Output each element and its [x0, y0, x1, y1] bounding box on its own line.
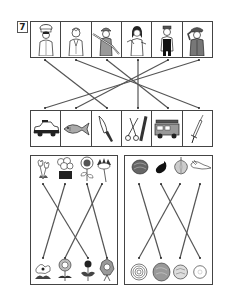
chrysanthemum-icon[interactable] — [56, 258, 74, 282]
connection-dot — [198, 59, 200, 61]
fish-icon — [62, 121, 90, 137]
connection-dot — [167, 59, 169, 61]
police-officer-icon — [185, 24, 209, 56]
occupation-cell-fishmonger[interactable]: fishmonger — [152, 22, 182, 57]
match-line — [45, 60, 107, 108]
object-cell-knife[interactable]: kitchen knife — [92, 111, 122, 146]
connection-dot — [137, 107, 139, 109]
connection-dot — [167, 107, 169, 109]
scissors-comb-icon — [124, 114, 150, 144]
match-line — [45, 60, 199, 108]
radish-icon[interactable] — [190, 159, 212, 173]
cauliflower-slice-icon[interactable] — [173, 264, 188, 280]
sunflower-icon[interactable] — [78, 156, 96, 182]
connection-dot — [75, 59, 77, 61]
wild-flower-icon[interactable] — [98, 259, 116, 282]
cabbage-icon[interactable] — [131, 159, 149, 175]
connection-dot — [44, 59, 46, 61]
object-cell-syringe[interactable]: syringe — [183, 111, 212, 146]
exercise-number-badge: 7 — [17, 21, 28, 33]
radish-slice-icon[interactable] — [193, 265, 207, 279]
connection-dot — [106, 107, 108, 109]
hairdresser-icon — [125, 24, 149, 56]
tulip-icon[interactable] — [35, 158, 51, 180]
thistle-icon[interactable] — [95, 157, 113, 183]
occupation-cell-hairdresser[interactable]: hairdresser — [122, 22, 152, 57]
firefighter-icon — [92, 24, 120, 56]
lily-icon[interactable] — [33, 259, 53, 281]
object-cell-police-car[interactable]: police car — [31, 111, 61, 146]
doctor-icon — [65, 24, 87, 56]
onion-slice-icon[interactable] — [130, 263, 148, 281]
flower-pot-icon[interactable] — [56, 157, 74, 180]
cabbage-section-icon[interactable] — [152, 262, 171, 282]
object-cell-fish[interactable]: fish — [61, 111, 91, 146]
connection-dot — [137, 59, 139, 61]
match-line — [76, 60, 199, 108]
connection-dot — [75, 107, 77, 109]
occupation-cell-firefighter[interactable]: firefighter — [92, 22, 122, 57]
occupations-row: chef doctor firefighter hair — [30, 21, 213, 58]
knife-icon — [96, 114, 116, 144]
syringe-icon — [189, 114, 205, 144]
connection-dot — [106, 59, 108, 61]
object-cell-scissors-comb[interactable]: scissors and comb — [122, 111, 152, 146]
connection-dot — [44, 107, 46, 109]
objects-row: police car fish kitchen knife scissors a… — [30, 110, 213, 147]
connection-dot — [198, 107, 200, 109]
match-line — [107, 60, 168, 108]
occupation-cell-doctor[interactable]: doctor — [61, 22, 91, 57]
occupation-cell-chef[interactable]: chef — [31, 22, 61, 57]
police-car-icon — [32, 119, 60, 139]
occupation-cell-police-officer[interactable]: police officer — [183, 22, 212, 57]
fire-truck-icon — [153, 118, 181, 140]
object-cell-fire-truck[interactable]: fire truck — [152, 111, 182, 146]
match-line — [76, 60, 168, 108]
chef-icon — [35, 24, 57, 56]
small-flower-icon[interactable] — [79, 259, 97, 282]
eggplant-icon[interactable] — [154, 160, 168, 174]
onion-icon[interactable] — [173, 157, 189, 175]
fishmonger-icon — [156, 24, 178, 56]
